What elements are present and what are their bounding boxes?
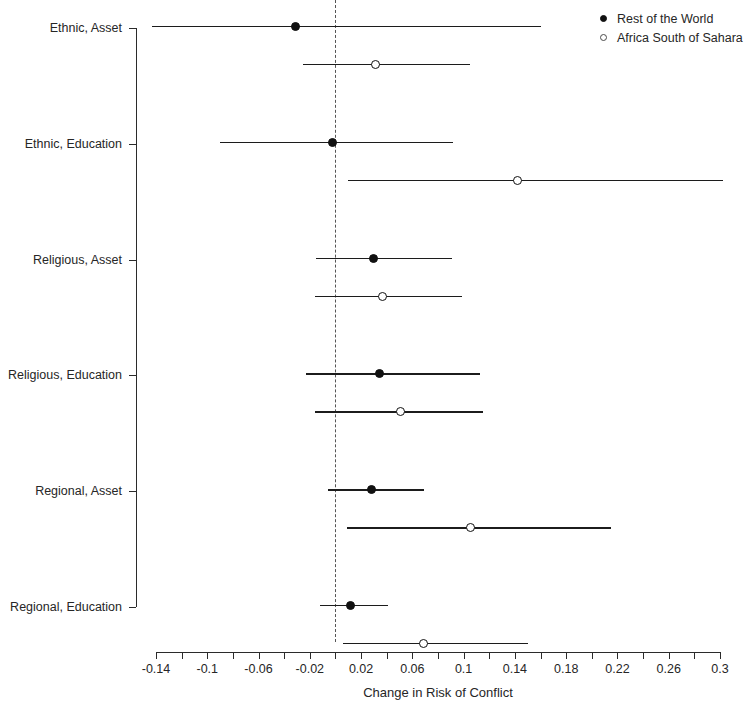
y-axis-category-label: Ethnic, Asset bbox=[0, 22, 122, 34]
estimate-point-africa-south-of-sahara bbox=[513, 176, 522, 185]
y-axis-tick bbox=[129, 144, 136, 145]
confidence-interval-line bbox=[303, 64, 470, 65]
confidence-interval-line bbox=[347, 527, 611, 528]
x-axis-tick bbox=[207, 652, 208, 659]
y-axis-tick bbox=[129, 260, 136, 261]
x-axis-tick-label: 0.3 bbox=[690, 663, 748, 676]
y-axis-category-label: Religious, Education bbox=[0, 369, 122, 381]
x-axis-tick bbox=[259, 652, 260, 659]
estimate-point-africa-south-of-sahara bbox=[419, 639, 428, 648]
y-axis-category-label: Regional, Asset bbox=[0, 485, 122, 497]
x-axis-tick bbox=[182, 652, 183, 659]
x-axis-tick bbox=[284, 652, 285, 659]
y-axis-category-label: Regional, Education bbox=[0, 601, 122, 613]
estimate-point-rest-of-the-world bbox=[367, 485, 376, 494]
estimate-point-africa-south-of-sahara bbox=[396, 407, 405, 416]
x-axis-tick bbox=[387, 652, 388, 659]
estimate-point-africa-south-of-sahara bbox=[466, 523, 475, 532]
filled-circle-icon bbox=[596, 15, 610, 22]
x-axis-tick bbox=[592, 652, 593, 659]
x-axis-tick bbox=[489, 652, 490, 659]
legend-label: Africa South of Sahara bbox=[617, 31, 743, 45]
open-circle-icon bbox=[596, 34, 610, 41]
confidence-interval-line bbox=[306, 373, 480, 374]
estimate-point-africa-south-of-sahara bbox=[371, 60, 380, 69]
x-axis-tick bbox=[335, 652, 336, 659]
x-axis-tick bbox=[541, 652, 542, 659]
x-axis-tick bbox=[720, 652, 721, 659]
x-axis-tick bbox=[515, 652, 516, 659]
x-axis-tick bbox=[464, 652, 465, 659]
y-axis-category-label: Ethnic, Education bbox=[0, 138, 122, 150]
estimate-point-rest-of-the-world bbox=[291, 22, 300, 31]
confidence-interval-line bbox=[343, 643, 528, 644]
legend-label: Rest of the World bbox=[617, 12, 713, 26]
x-axis-tick bbox=[438, 652, 439, 659]
zero-reference-line bbox=[335, 0, 336, 642]
y-axis-category-label: Religious, Asset bbox=[0, 254, 122, 266]
x-axis-tick bbox=[566, 652, 567, 659]
estimate-point-rest-of-the-world bbox=[369, 254, 378, 263]
confidence-interval-line bbox=[315, 296, 462, 297]
y-axis-tick bbox=[129, 491, 136, 492]
x-axis-tick bbox=[617, 652, 618, 659]
x-axis-tick bbox=[694, 652, 695, 659]
legend: Rest of the World Africa South of Sahara bbox=[596, 9, 743, 47]
y-axis-tick bbox=[129, 607, 136, 608]
x-axis-tick bbox=[156, 652, 157, 659]
estimate-point-rest-of-the-world bbox=[346, 601, 355, 610]
y-axis-tick bbox=[129, 375, 136, 376]
x-axis-title: Change in Risk of Conflict bbox=[288, 685, 588, 700]
legend-entry-africa-south-of-sahara: Africa South of Sahara bbox=[596, 28, 743, 47]
confidence-interval-line bbox=[348, 180, 722, 181]
y-axis-tick bbox=[129, 28, 136, 29]
confidence-interval-line bbox=[316, 258, 452, 259]
x-axis-tick bbox=[669, 652, 670, 659]
x-axis-tick bbox=[361, 652, 362, 659]
y-axis-line bbox=[136, 28, 137, 607]
estimate-point-africa-south-of-sahara bbox=[378, 292, 387, 301]
estimate-point-rest-of-the-world bbox=[375, 369, 384, 378]
legend-entry-rest-of-the-world: Rest of the World bbox=[596, 9, 743, 28]
x-axis-tick bbox=[643, 652, 644, 659]
x-axis-tick bbox=[310, 652, 311, 659]
x-axis-tick bbox=[233, 652, 234, 659]
confidence-interval-line bbox=[152, 26, 540, 27]
x-axis-tick bbox=[412, 652, 413, 659]
